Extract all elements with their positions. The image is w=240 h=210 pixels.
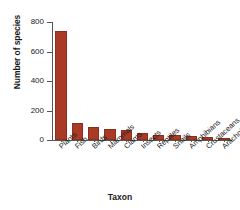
y-axis-tick-label: 0 — [40, 135, 44, 144]
y-axis-tick: 400 — [47, 81, 52, 82]
y-axis-tick-label: 400 — [31, 76, 44, 85]
plot-area: 0200400600800 — [52, 22, 232, 140]
y-axis-tick: 200 — [47, 111, 52, 112]
y-axis-tick-label: 200 — [31, 106, 44, 115]
y-axis-tick-label: 800 — [31, 17, 44, 26]
bar — [55, 31, 66, 140]
bars-layer — [53, 22, 232, 140]
bar-chart-figure: Number of species 0200400600800 PlantsFi… — [0, 0, 240, 210]
x-axis-title: Taxon — [0, 192, 240, 202]
y-axis-tick: 800 — [47, 22, 52, 23]
y-axis-tick: 600 — [47, 52, 52, 53]
x-axis-ticks: PlantsFishBirdsMammalsClamsInsectsReptil… — [52, 141, 232, 187]
y-axis-title: Number of species — [12, 0, 22, 107]
y-axis-tick-label: 600 — [31, 47, 44, 56]
